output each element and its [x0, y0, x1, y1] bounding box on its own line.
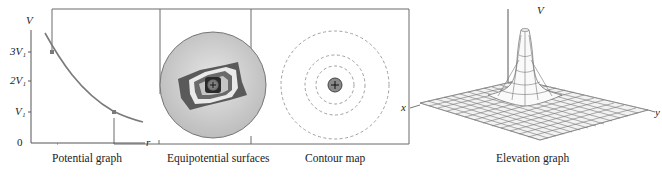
caption-equipotential-surfaces: Equipotential surfaces	[167, 152, 270, 164]
tick-zero: 0	[17, 136, 23, 148]
elevation-x-label: x	[401, 101, 406, 113]
caption-potential-graph: Potential graph	[52, 152, 122, 164]
tick-2v1: 2V₁	[10, 74, 26, 86]
curve-point-v1	[112, 110, 116, 114]
curve-point-3v1	[50, 50, 54, 54]
tick-v1: V₁	[15, 105, 26, 117]
diagram-canvas	[0, 0, 662, 177]
potential-curve	[45, 33, 143, 122]
elevation-graph-figure	[420, 29, 648, 141]
caption-contour-map: Contour map	[305, 152, 365, 164]
elevation-v-label: V	[537, 4, 544, 16]
v-axis-label: V	[26, 14, 33, 26]
tick-3v1: 3V₁	[10, 45, 26, 57]
caption-elevation-graph: Elevation graph	[496, 152, 569, 164]
equipotential-surfaces-figure	[160, 32, 266, 138]
elevation-y-label: y	[655, 106, 660, 118]
potential-graph-axes	[28, 30, 145, 143]
connector-lines	[52, 9, 508, 144]
r-axis-label: r	[146, 136, 150, 148]
